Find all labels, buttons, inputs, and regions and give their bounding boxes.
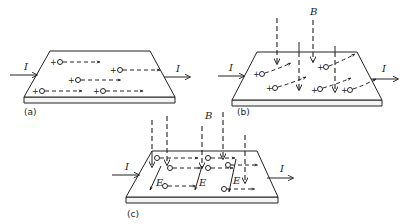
magnetic-field-label: B [309, 6, 317, 17]
svg-text:+: + [110, 66, 117, 75]
current-in-label: I [124, 161, 130, 172]
panel-a: I I + + + + + (a) [10, 51, 190, 117]
current-in-label: I [228, 62, 234, 73]
electric-field-label: E [232, 175, 241, 186]
panel-c: I I B E E E [112, 110, 293, 219]
svg-text:+: + [68, 76, 75, 85]
svg-text:+: + [341, 86, 348, 95]
plate-edge [24, 97, 175, 103]
svg-text:+: + [32, 87, 39, 96]
svg-text:+: + [50, 58, 57, 67]
panel-b: I I B + + + + [218, 6, 398, 117]
plate-edge [126, 197, 278, 203]
hall-effect-diagram: I I + + + + + (a) [0, 0, 407, 224]
panel-caption: (b) [237, 107, 250, 117]
current-out-label: I [279, 163, 285, 174]
conductor-plate [126, 151, 278, 197]
magnetic-field-label: B [204, 110, 212, 121]
svg-text:+: + [93, 87, 100, 96]
current-out-label: I [175, 63, 181, 74]
plate-edge [232, 100, 382, 106]
svg-text:+: + [317, 63, 324, 72]
current-out-label: I [381, 63, 387, 74]
panel-caption: (a) [24, 107, 37, 117]
current-in-label: I [23, 61, 29, 72]
svg-text:+: + [266, 84, 273, 93]
panel-caption: (c) [127, 209, 139, 219]
electric-field-label: E [198, 177, 207, 188]
svg-text:+: + [253, 70, 260, 79]
svg-text:+: + [311, 86, 318, 95]
